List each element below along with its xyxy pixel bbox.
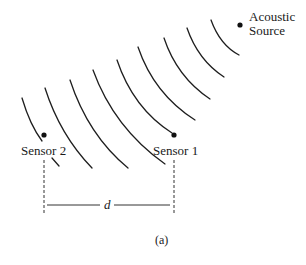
source-label-line2: Source (249, 23, 285, 38)
distance-label: d (104, 197, 111, 212)
sensor-2-label: Sensor 2 (21, 143, 66, 158)
source-label-line1: Acoustic (249, 9, 295, 24)
figure-caption: (a) (155, 233, 168, 247)
wavefront-arc-4 (138, 47, 195, 120)
wavefront-arc-1 (211, 20, 239, 55)
wavefront-arc-7 (70, 80, 128, 168)
wavefront-arc-9-tail (52, 158, 59, 166)
source-dot (237, 22, 242, 27)
sensor-1-dot (171, 132, 176, 137)
wavefront-arc-9 (22, 98, 42, 141)
wavefront-arc-5 (117, 60, 172, 133)
sensor-2-dot (41, 132, 46, 137)
sensor-1-label: Sensor 1 (153, 143, 198, 158)
diagram-canvas: Acoustic Source Sensor 1 Sensor 2 d (a) (0, 0, 306, 265)
wavefront-arc-3 (164, 38, 210, 99)
